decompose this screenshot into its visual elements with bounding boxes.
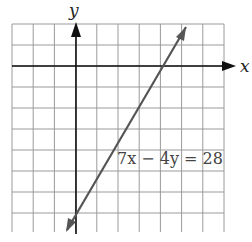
- coordinate-graph: x y 7x − 4y = 28: [0, 0, 252, 242]
- line-arrow-bottom-icon: [66, 218, 76, 232]
- x-axis-label: x: [240, 56, 250, 76]
- grid-lines: [12, 24, 224, 232]
- line-arrow-top-icon: [176, 27, 186, 41]
- x-axis-arrow-icon: [222, 61, 236, 71]
- y-axis-label: y: [68, 0, 79, 20]
- equation-label: 7x − 4y = 28: [117, 149, 223, 168]
